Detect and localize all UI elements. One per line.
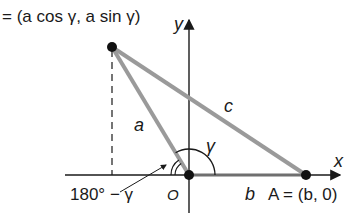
point-b-coordinates-label: = (a cos γ, a sin γ) bbox=[2, 7, 140, 26]
supplementary-angle-label: 180° − γ bbox=[70, 185, 134, 204]
origin-label: O bbox=[167, 186, 179, 203]
angle-gamma-label: γ bbox=[206, 136, 216, 156]
point-origin bbox=[184, 170, 194, 180]
side-c-label: c bbox=[224, 96, 233, 116]
point-a-coordinates-label: A = (b, 0) bbox=[268, 185, 337, 204]
law-of-cosines-diagram: = (a cos γ, a sin γ) y x c a γ 180° − γ … bbox=[0, 0, 349, 217]
side-b-label: b bbox=[245, 184, 255, 204]
side-a bbox=[112, 47, 189, 175]
side-a-label: a bbox=[134, 115, 144, 135]
point-a bbox=[301, 170, 311, 180]
point-b bbox=[107, 42, 117, 52]
x-axis-label: x bbox=[333, 151, 344, 171]
supplementary-angle-arc-inner bbox=[175, 163, 181, 175]
y-axis-label: y bbox=[172, 14, 184, 34]
